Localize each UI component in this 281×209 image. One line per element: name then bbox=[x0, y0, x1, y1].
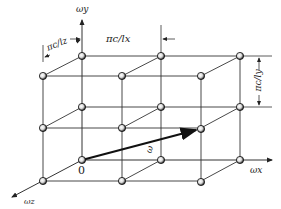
omega-vector bbox=[82, 130, 196, 160]
lattice-depth-lines bbox=[43, 56, 240, 181]
spacing-lx-label: πc/lx bbox=[106, 34, 130, 44]
axis-x-label: ωx bbox=[250, 166, 262, 175]
lattice-diagram: ωy ωx ωz 0 ω πc/lx πc/ly πc/lz bbox=[0, 0, 281, 209]
spacing-ly-label: πc/ly bbox=[254, 70, 263, 92]
lattice-nodes bbox=[39, 52, 243, 185]
axis-z bbox=[12, 160, 82, 197]
axis-z-label: ωz bbox=[24, 198, 35, 206]
origin-label: 0 bbox=[78, 165, 85, 176]
axis-y-label: ωy bbox=[76, 5, 88, 14]
